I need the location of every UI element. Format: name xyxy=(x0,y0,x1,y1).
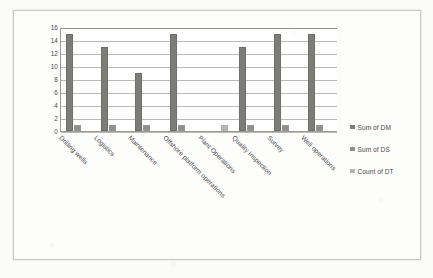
legend-swatch-icon xyxy=(350,125,355,130)
legend-item[interactable]: Count of DT xyxy=(350,167,420,175)
legend-item[interactable]: Sum of DM xyxy=(350,123,420,131)
y-axis-tick-label: 2 xyxy=(34,116,58,122)
legend-swatch-icon xyxy=(350,169,355,174)
legend-label: Sum of DS xyxy=(358,146,390,153)
x-axis-tick-label: Survey xyxy=(266,134,286,154)
x-axis-tick-label: Plant Operations xyxy=(197,134,237,174)
bar-group xyxy=(165,28,200,131)
y-axis-tick-label: 8 xyxy=(34,77,58,83)
legend-swatch-icon xyxy=(350,147,355,152)
bar xyxy=(221,125,228,132)
chart-frame: 1614121086420 Drilling wellsLogisticsMai… xyxy=(13,10,421,260)
bar xyxy=(247,125,254,132)
bar-group xyxy=(130,28,165,131)
bar xyxy=(274,34,281,132)
bar xyxy=(170,34,177,132)
legend-label: Sum of DM xyxy=(358,124,391,131)
x-axis-tick-label: Maintenance xyxy=(127,134,159,166)
x-axis-tick-label: Well operations xyxy=(300,134,338,172)
x-axis-tick-label: Logistics xyxy=(93,134,116,157)
chart-legend: Sum of DMSum of DSCount of DT xyxy=(350,123,420,189)
y-axis-tick-label: 4 xyxy=(34,103,58,109)
bar xyxy=(66,34,73,132)
bar xyxy=(143,125,150,132)
y-axis-tick-label: 10 xyxy=(34,64,58,70)
y-axis-tick-label: 14 xyxy=(34,38,58,44)
bar xyxy=(101,47,108,132)
screenshot-root: 1614121086420 Drilling wellsLogisticsMai… xyxy=(0,0,433,278)
y-axis: 1614121086420 xyxy=(34,23,58,137)
bar xyxy=(135,73,142,132)
bar xyxy=(239,47,246,132)
y-axis-tick-label: 16 xyxy=(34,25,58,31)
bar-series-container xyxy=(61,28,337,131)
bar-group xyxy=(200,28,235,131)
bar-group xyxy=(61,28,96,131)
bar-group xyxy=(303,28,338,131)
y-axis-tick-label: 0 xyxy=(34,129,58,135)
bar-group xyxy=(234,28,269,131)
bar xyxy=(178,125,185,132)
bar-group xyxy=(269,28,304,131)
legend-item[interactable]: Sum of DS xyxy=(350,145,420,153)
bar xyxy=(316,125,323,132)
bar xyxy=(74,125,81,132)
gridline xyxy=(61,132,337,133)
x-axis: Drilling wellsLogisticsMaintenanceOffsho… xyxy=(60,134,350,229)
bar xyxy=(282,125,289,132)
y-axis-tick-label: 6 xyxy=(34,90,58,96)
y-axis-tick-label: 12 xyxy=(34,51,58,57)
legend-label: Count of DT xyxy=(358,168,394,175)
bar xyxy=(308,34,315,132)
plot-area xyxy=(60,28,337,132)
bar-group xyxy=(96,28,131,131)
bar xyxy=(109,125,116,132)
x-axis-tick-label: Offshore platform operations xyxy=(162,134,227,199)
x-axis-tick-label: Drilling wells xyxy=(58,134,89,165)
